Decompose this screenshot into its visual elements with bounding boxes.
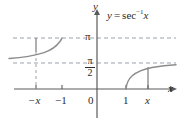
equation-argument: x — [144, 9, 149, 21]
x-tick-label-x: x — [145, 95, 150, 106]
y-tick-label-pi-half: π 2 — [85, 56, 95, 78]
x-axis-label: x — [168, 83, 173, 94]
x-tick-label-neg-x: −x — [28, 95, 40, 106]
x-tick-label-one: 1 — [123, 95, 129, 106]
fraction-numerator: π — [85, 56, 95, 68]
equation-label: y=sec−1x — [107, 9, 149, 21]
fraction-denominator: 2 — [85, 68, 95, 79]
y-axis-label: y — [93, 1, 98, 12]
equation-exponent: −1 — [136, 8, 143, 16]
equation-function: sec — [122, 9, 136, 21]
x-tick-label-zero: 0 — [88, 95, 94, 106]
y-tick-label-pi: π — [85, 31, 91, 42]
equation-operator: = — [112, 9, 122, 21]
x-tick-label-neg-one: −1 — [55, 95, 67, 106]
sec-inverse-graph-figure: y x y=sec−1x π π 2 −x −1 0 1 x — [0, 0, 180, 124]
